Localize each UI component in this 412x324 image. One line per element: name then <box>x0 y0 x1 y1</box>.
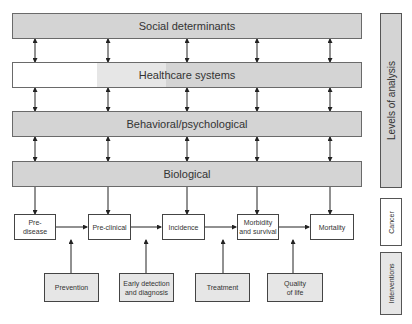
side-label-levels-of-analysis: Levels of analysis <box>380 13 402 188</box>
level-biological: Biological <box>12 161 362 187</box>
stage-pre-clinical: Pre-clinical <box>88 214 131 240</box>
stage-label: Pre-clinical <box>92 223 126 232</box>
level-label: Social determinants <box>139 20 236 32</box>
stage-morbidity-survival: Morbidity and survival <box>237 214 279 240</box>
intervention-label: Prevention <box>55 283 88 292</box>
side-label-text: Levels of analysis <box>386 61 397 140</box>
level-behavioral-psychological: Behavioral/psychological <box>12 111 362 137</box>
intervention-quality-of-life: Quality of life <box>267 273 323 302</box>
level-healthcare-systems: Healthcare systems <box>12 62 362 88</box>
side-label-cancer: Cancer <box>380 198 402 246</box>
level-social-determinants: Social determinants <box>12 13 362 39</box>
stage-label: Morbidity and survival <box>239 218 276 236</box>
side-label-text: Interventions <box>388 263 395 303</box>
intervention-treatment: Treatment <box>195 273 250 302</box>
stage-label: Incidence <box>169 223 199 232</box>
side-label-interventions: Interventions <box>380 252 402 315</box>
level-label: Healthcare systems <box>139 69 236 81</box>
level-label: Behavioral/psychological <box>126 118 247 130</box>
level-label: Biological <box>163 168 210 180</box>
intervention-label: Quality of life <box>284 279 306 297</box>
stage-pre-disease: Pre- disease <box>14 214 56 240</box>
intervention-label: Early detection and diagnosis <box>123 279 169 297</box>
stage-label: Mortality <box>319 223 345 232</box>
intervention-label: Treatment <box>207 283 239 292</box>
intervention-early-detection: Early detection and diagnosis <box>119 273 174 302</box>
stage-label: Pre- disease <box>23 218 47 236</box>
stage-incidence: Incidence <box>162 214 205 240</box>
stage-mortality: Mortality <box>310 214 354 240</box>
intervention-prevention: Prevention <box>44 273 99 302</box>
side-label-text: Cancer <box>388 211 395 234</box>
